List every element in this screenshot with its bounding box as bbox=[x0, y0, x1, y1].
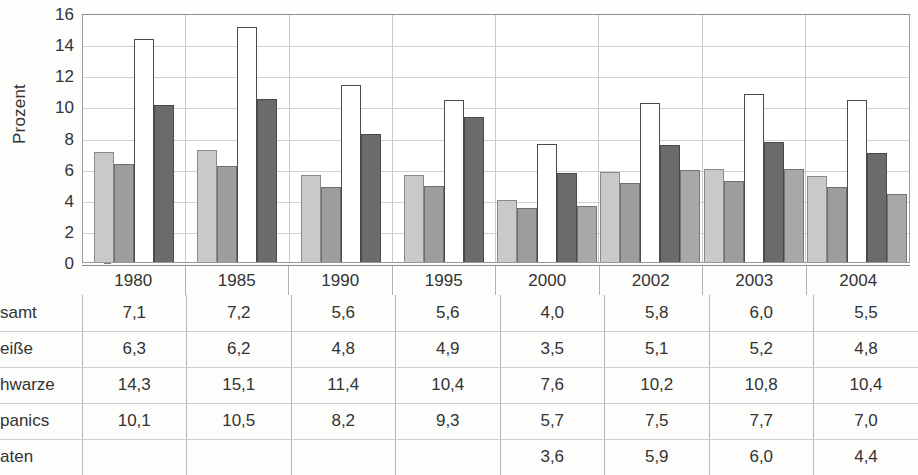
bar bbox=[660, 145, 680, 262]
table-cell bbox=[82, 439, 187, 475]
table-row-label: eiße bbox=[0, 331, 82, 367]
table-row-label: panics bbox=[0, 403, 82, 439]
table-cell: 5,9 bbox=[605, 439, 710, 475]
table-cell: 11,4 bbox=[291, 367, 396, 403]
bar bbox=[134, 39, 154, 262]
bar bbox=[577, 206, 597, 262]
table-cell: 10,4 bbox=[814, 367, 918, 403]
bar-group bbox=[806, 15, 909, 262]
bar bbox=[257, 99, 277, 262]
bar bbox=[620, 183, 640, 262]
table-cell: 6,0 bbox=[709, 295, 814, 331]
bar-group bbox=[83, 15, 186, 262]
x-tick-label: 2004 bbox=[807, 266, 911, 295]
x-axis-labels: 19801985199019952000200220032004 bbox=[82, 265, 910, 295]
x-tick-label: 1995 bbox=[393, 266, 497, 295]
table-cell: 14,3 bbox=[82, 367, 187, 403]
table-cell: 4,8 bbox=[814, 331, 918, 367]
bar bbox=[537, 144, 557, 262]
table-cell: 4,0 bbox=[500, 295, 605, 331]
table-cell: 4,8 bbox=[291, 331, 396, 367]
y-tick-label: 0 bbox=[28, 255, 74, 272]
bar bbox=[464, 117, 484, 262]
table-cell: 4,4 bbox=[814, 439, 918, 475]
x-tick-label: 1985 bbox=[186, 266, 290, 295]
bar-group bbox=[290, 15, 393, 262]
table-cell: 7,6 bbox=[500, 367, 605, 403]
table-cell: 15,1 bbox=[187, 367, 292, 403]
bar bbox=[744, 94, 764, 262]
table-cell: 6,3 bbox=[82, 331, 187, 367]
table-cell bbox=[291, 439, 396, 475]
bar bbox=[94, 152, 114, 262]
y-tick-label: 14 bbox=[28, 37, 74, 54]
table-row: samt7,17,25,65,64,05,86,05,5 bbox=[0, 295, 918, 331]
table-cell: 3,6 bbox=[500, 439, 605, 475]
x-tick-label: 2000 bbox=[496, 266, 600, 295]
x-tick-label: 1980 bbox=[82, 266, 186, 295]
y-tick-mark bbox=[104, 263, 111, 264]
table-cell: 3,5 bbox=[500, 331, 605, 367]
bar bbox=[764, 142, 784, 262]
bar bbox=[704, 169, 724, 262]
x-tick-label: 2003 bbox=[703, 266, 807, 295]
table-cell: 10,2 bbox=[605, 367, 710, 403]
data-table: samt7,17,25,65,64,05,86,05,5eiße6,36,24,… bbox=[0, 295, 918, 475]
bar-group bbox=[393, 15, 496, 262]
table-cell: 10,8 bbox=[709, 367, 814, 403]
bar bbox=[424, 186, 444, 262]
table-row-label: hwarze bbox=[0, 367, 82, 403]
table-cell: 5,2 bbox=[709, 331, 814, 367]
bar bbox=[724, 181, 744, 262]
data-table-area: samt7,17,25,65,64,05,86,05,5eiße6,36,24,… bbox=[0, 295, 918, 475]
bar bbox=[404, 175, 424, 262]
bar bbox=[847, 100, 867, 262]
table-row: eiße6,36,24,84,93,55,15,24,8 bbox=[0, 331, 918, 367]
table-cell: 5,6 bbox=[291, 295, 396, 331]
bar bbox=[237, 27, 257, 262]
bar bbox=[600, 172, 620, 262]
table-cell: 5,5 bbox=[814, 295, 918, 331]
table-cell: 9,3 bbox=[396, 403, 501, 439]
table-cell: 6,0 bbox=[709, 439, 814, 475]
bar-group bbox=[599, 15, 702, 262]
bar bbox=[114, 164, 134, 262]
y-tick-label: 16 bbox=[28, 6, 74, 23]
table-cell bbox=[187, 439, 292, 475]
bar bbox=[807, 176, 827, 262]
bar bbox=[301, 175, 321, 262]
chart-page: Prozent 1614121086420 198019851990199520… bbox=[0, 0, 918, 475]
bar-group bbox=[496, 15, 599, 262]
bar-group bbox=[186, 15, 289, 262]
y-tick-label: 2 bbox=[28, 223, 74, 240]
bar bbox=[557, 173, 577, 262]
bar bbox=[640, 103, 660, 262]
bar bbox=[497, 200, 517, 262]
table-cell: 5,1 bbox=[605, 331, 710, 367]
bar bbox=[321, 187, 341, 262]
bar-chart: Prozent 1614121086420 198019851990199520… bbox=[0, 0, 918, 285]
table-row: aten3,65,96,04,4 bbox=[0, 439, 918, 475]
table-cell: 7,1 bbox=[82, 295, 187, 331]
y-tick-label: 6 bbox=[28, 161, 74, 178]
table-row: panics10,110,58,29,35,77,57,77,0 bbox=[0, 403, 918, 439]
table-cell: 7,7 bbox=[709, 403, 814, 439]
y-tick-label: 10 bbox=[28, 99, 74, 116]
y-tick-label: 8 bbox=[28, 130, 74, 147]
table-body: samt7,17,25,65,64,05,86,05,5eiße6,36,24,… bbox=[0, 295, 918, 475]
bar-group bbox=[703, 15, 806, 262]
table-cell: 7,5 bbox=[605, 403, 710, 439]
bar bbox=[784, 169, 804, 262]
y-axis-label: Prozent bbox=[10, 64, 30, 164]
table-cell: 4,9 bbox=[396, 331, 501, 367]
table-row-label: aten bbox=[0, 439, 82, 475]
table-cell: 10,1 bbox=[82, 403, 187, 439]
table-cell: 5,6 bbox=[396, 295, 501, 331]
bar bbox=[361, 134, 381, 262]
bar bbox=[217, 166, 237, 262]
bar bbox=[444, 100, 464, 262]
y-axis-ticks: 1614121086420 bbox=[28, 0, 74, 264]
bar bbox=[680, 170, 700, 262]
x-tick-label: 1990 bbox=[289, 266, 393, 295]
bar bbox=[827, 187, 847, 262]
